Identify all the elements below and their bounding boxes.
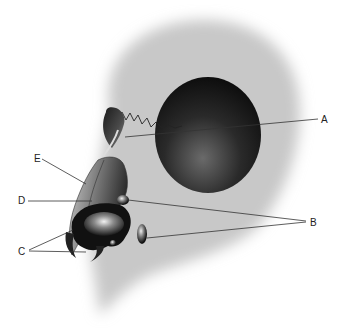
structure-b-lower — [137, 224, 147, 244]
label-c: C — [18, 247, 25, 257]
label-b: B — [310, 218, 317, 228]
sinus-a — [155, 77, 261, 193]
sinus-illustration — [0, 0, 349, 330]
label-d: D — [18, 196, 25, 206]
structure-b-upper — [117, 195, 129, 205]
diagram: A B C D E — [0, 0, 349, 330]
label-a: A — [321, 115, 328, 125]
label-e: E — [34, 154, 41, 164]
